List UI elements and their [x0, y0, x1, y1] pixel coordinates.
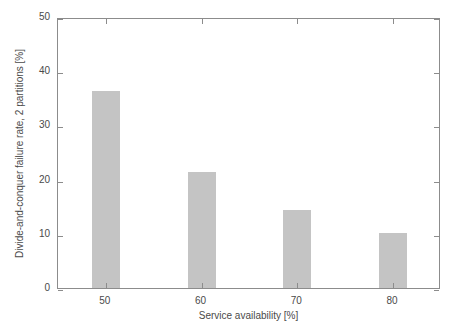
x-tick-label-80: 80	[372, 295, 412, 306]
bar-70	[283, 210, 311, 288]
x-tick-top-50	[106, 19, 107, 24]
y-tick-0	[58, 290, 63, 291]
chart-title	[0, 0, 455, 1]
x-tick-80	[393, 283, 394, 288]
x-tick-label-70: 70	[276, 295, 316, 306]
y-tick-label-40: 40	[0, 65, 50, 76]
bar-80	[379, 233, 407, 288]
y-tick-right-20	[434, 182, 439, 183]
y-tick-label-50: 50	[0, 11, 50, 22]
bar-60	[188, 172, 216, 288]
x-tick-70	[297, 283, 298, 288]
x-tick-50	[106, 283, 107, 288]
y-tick-40	[58, 73, 63, 74]
x-tick-top-60	[202, 19, 203, 24]
y-tick-label-30: 30	[0, 119, 50, 130]
x-axis-title: Service availability [%]	[57, 310, 440, 321]
y-tick-label-0: 0	[0, 282, 50, 293]
y-tick-30	[58, 127, 63, 128]
y-tick-label-20: 20	[0, 174, 50, 185]
x-tick-60	[202, 283, 203, 288]
y-tick-right-10	[434, 236, 439, 237]
x-tick-top-80	[393, 19, 394, 24]
y-tick-right-30	[434, 127, 439, 128]
bar-50	[92, 91, 120, 288]
y-tick-10	[58, 236, 63, 237]
bars-layer	[58, 19, 439, 288]
y-tick-right-50	[434, 19, 439, 20]
y-tick-50	[58, 19, 63, 20]
bar-chart-figure: Divide-and-conquer failure rate, 2 parti…	[0, 0, 455, 329]
y-tick-right-0	[434, 290, 439, 291]
y-axis-title: Divide-and-conquer failure rate, 2 parti…	[14, 18, 28, 289]
y-tick-right-40	[434, 73, 439, 74]
x-tick-label-50: 50	[85, 295, 125, 306]
x-tick-label-60: 60	[181, 295, 221, 306]
y-tick-20	[58, 182, 63, 183]
y-tick-label-10: 10	[0, 228, 50, 239]
plot-area	[57, 18, 440, 289]
x-tick-top-70	[297, 19, 298, 24]
